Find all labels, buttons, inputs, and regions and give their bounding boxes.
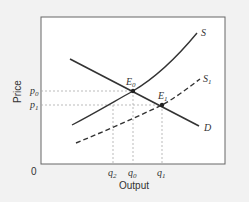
tick-q2: q2 [108,167,117,180]
supply-demand-diagram: S S1 D E0 E1 p0 p1 q2 q0 q1 0 Output Pri… [0,0,249,202]
label-d: D [203,122,212,133]
tick-p0: p0 [29,85,39,98]
x-axis-label: Output [119,180,149,191]
origin-label: 0 [31,166,37,177]
label-s: S [201,27,206,38]
tick-q0: q0 [128,167,137,180]
tick-q1: q1 [157,167,166,180]
y-axis-label: Price [12,80,23,103]
tick-p1: p1 [29,99,39,112]
equilibrium-point-e1 [160,103,164,107]
equilibrium-point-e0 [131,89,135,93]
